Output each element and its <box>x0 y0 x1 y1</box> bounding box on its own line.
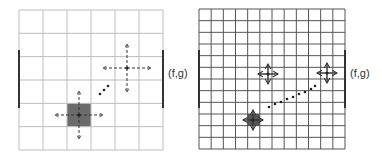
node-center <box>325 71 328 74</box>
node-center <box>266 72 269 75</box>
fg-label-left: (f,g) <box>168 67 188 79</box>
trajectory-dot <box>304 91 307 94</box>
trajectory-dot <box>99 93 102 96</box>
fg-label-right: (f,g) <box>350 67 370 79</box>
fine-grid-panel <box>199 9 345 149</box>
trajectory-dot <box>274 103 277 106</box>
trajectory-dot <box>268 106 271 109</box>
node-center <box>251 118 254 121</box>
trajectory-dot <box>286 98 289 101</box>
trajectory-dot <box>292 96 295 99</box>
node-center <box>125 66 128 69</box>
node-arrows-icon <box>55 91 103 139</box>
trajectory-dot <box>107 85 110 88</box>
node-center <box>77 113 80 116</box>
diagram-canvas <box>0 0 382 158</box>
trajectory-dot <box>314 85 317 88</box>
trajectory-dot <box>298 93 301 96</box>
trajectory-dot <box>310 88 313 91</box>
trajectory-dot <box>280 101 283 104</box>
node-arrows-icon <box>103 44 151 92</box>
trajectory-dot <box>103 89 106 92</box>
coarse-grid-panel <box>19 10 163 150</box>
node-arrows-icon <box>317 63 337 83</box>
